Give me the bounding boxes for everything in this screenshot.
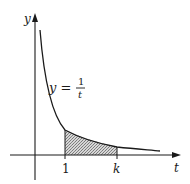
tick-label-lower: 1 — [62, 162, 70, 176]
y-axis-arrow-icon — [32, 13, 38, 22]
curve-label-numerator: 1 — [78, 76, 84, 87]
tick-label-upper: k — [113, 162, 120, 176]
x-axis-arrow-icon — [172, 152, 181, 158]
curve-label-denominator: t — [78, 89, 83, 100]
y-axis-label: y — [23, 12, 31, 26]
x-axis-label: t — [174, 161, 179, 175]
integral-diagram: y t 1 k y = 1 t — [0, 0, 190, 184]
curve-label-lhs: y = — [48, 80, 71, 95]
